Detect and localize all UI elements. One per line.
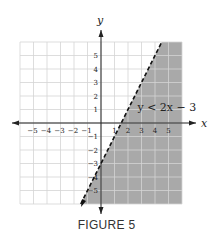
inequality-graph: xy−5−4−3−2−112345−5−4−3−2−112345y < 2x −…: [0, 0, 213, 234]
figure-caption: FIGURE 5: [0, 218, 213, 232]
x-tick-label: −4: [41, 127, 52, 135]
x-tick-label: −2: [68, 127, 78, 135]
y-axis-label: y: [96, 14, 104, 27]
x-axis-label: x: [201, 117, 208, 130]
y-axis-up-arrow-icon: [99, 30, 104, 37]
x-tick-label: 2: [126, 127, 130, 135]
y-tick-label: −1: [88, 133, 98, 141]
y-tick-label: 1: [94, 106, 98, 114]
x-axis-left-arrow-icon: [12, 121, 19, 126]
y-tick-label: 4: [94, 66, 99, 74]
y-tick-label: 5: [94, 52, 98, 60]
x-tick-label: −5: [27, 127, 37, 135]
x-tick-label: −3: [54, 127, 64, 135]
y-tick-label: −3: [88, 160, 98, 168]
x-tick-label: 4: [153, 127, 158, 135]
y-tick-label: −2: [88, 147, 98, 155]
y-tick-label: 3: [94, 79, 98, 87]
y-tick-label: 2: [94, 93, 98, 101]
y-tick-label: −5: [88, 187, 98, 195]
y-axis-down-arrow-icon: [99, 207, 104, 214]
x-tick-label: 5: [166, 127, 170, 135]
inequality-label: y < 2x − 3: [136, 101, 196, 114]
x-axis-right-arrow-icon: [189, 121, 196, 126]
x-tick-label: 3: [139, 127, 143, 135]
